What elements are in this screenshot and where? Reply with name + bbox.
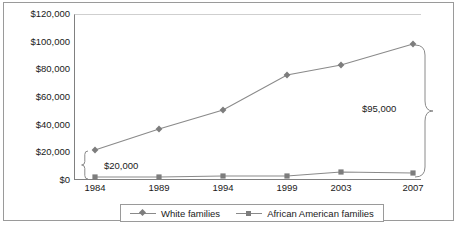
legend-marker-diamond-icon xyxy=(130,208,156,218)
y-axis-tick-label: $60,000 xyxy=(2,92,70,102)
x-axis-tick-label: 2007 xyxy=(383,182,443,193)
legend-label: African American families xyxy=(267,208,374,219)
annotation-label-95k: $95,000 xyxy=(362,103,396,114)
y-axis-tick-label: $40,000 xyxy=(2,120,70,130)
annotation-label-20k: $20,000 xyxy=(104,160,138,171)
y-axis-tick-label: $100,000 xyxy=(2,37,70,47)
legend-item-white-families[interactable]: White families xyxy=(130,208,220,219)
legend-label: White families xyxy=(161,208,220,219)
x-axis-tick-label: 1999 xyxy=(257,182,317,193)
legend-marker-square-icon xyxy=(236,208,262,218)
chart-legend: White families African American families xyxy=(120,204,384,222)
x-axis-tick-label: 2003 xyxy=(311,182,371,193)
y-axis-tick-label: $20,000 xyxy=(2,147,70,157)
plot-area xyxy=(74,14,421,180)
y-axis-tick-label: $120,000 xyxy=(2,9,70,19)
x-axis-tick-label: 1989 xyxy=(129,182,189,193)
legend-item-african-american-families[interactable]: African American families xyxy=(236,208,374,219)
x-axis-tick-label: 1984 xyxy=(65,182,125,193)
y-axis-tick-label: $0 xyxy=(2,175,70,185)
chart-figure: $120,000 $100,000 $80,000 $60,000 $40,00… xyxy=(0,0,461,238)
y-axis-tick-labels: $120,000 $100,000 $80,000 $60,000 $40,00… xyxy=(0,14,70,180)
x-axis-tick-label: 1994 xyxy=(193,182,253,193)
x-axis-tick-labels: 1984 1989 1994 1999 2003 2007 xyxy=(74,182,421,198)
y-axis-tick-label: $80,000 xyxy=(2,64,70,74)
